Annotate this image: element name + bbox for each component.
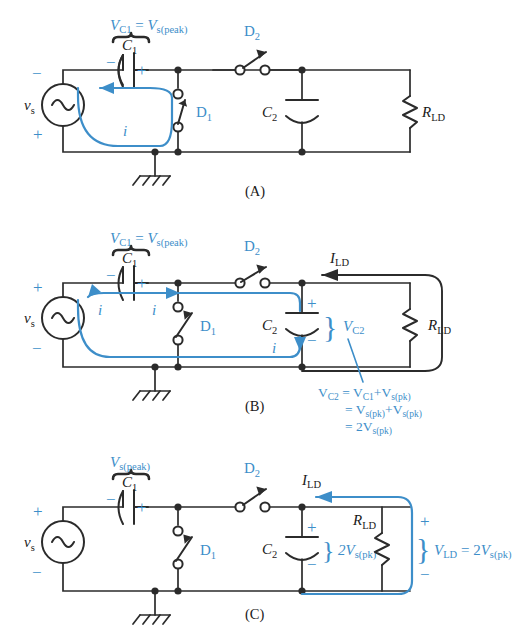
panel-a-wiring xyxy=(63,70,410,152)
vc2-label: VC2 xyxy=(343,318,364,336)
c2-bottom-sign: − xyxy=(307,555,317,574)
source-bottom-sign: − xyxy=(32,339,42,358)
c2-top-sign: + xyxy=(307,294,317,313)
c2-top-sign: + xyxy=(307,518,317,537)
vld-label: VLD = 2Vs(pk) xyxy=(434,542,512,561)
equation-line-2: = Vs(pk)+Vs(pk) xyxy=(345,402,422,420)
c1-brace-label: VC1 = Vs(peak) xyxy=(110,17,188,36)
diode-d1 xyxy=(173,89,187,131)
c2-voltage-brace: } xyxy=(322,536,334,565)
d1-label: D1 xyxy=(200,318,216,337)
panel-c-caption: (C) xyxy=(245,606,265,623)
source-bottom-sign: + xyxy=(33,125,43,144)
c1-label: C1 xyxy=(122,474,137,493)
node xyxy=(174,363,181,370)
c1-right-sign: + xyxy=(137,61,147,80)
d2-label: D2 xyxy=(244,238,260,257)
source-top-sign: − xyxy=(32,64,42,83)
vld-top-sign: + xyxy=(420,512,430,531)
rld-label: RLD xyxy=(421,104,446,123)
panel-a-caption: (A) xyxy=(245,183,265,200)
d1-label: D1 xyxy=(200,542,216,561)
equation-line-1: VC2 = VC1+Vs(pk) xyxy=(318,385,411,403)
d1-label: D1 xyxy=(196,104,212,123)
capacitor-c2 xyxy=(286,100,318,123)
node xyxy=(174,66,181,73)
node xyxy=(298,148,305,155)
panel-a: vs − + − + C1 VC1 = Vs(peak) D1 D2 C2 RL… xyxy=(0,0,521,205)
node xyxy=(174,587,181,594)
resistor-rld xyxy=(375,533,389,565)
node xyxy=(174,148,181,155)
node xyxy=(298,363,305,370)
node xyxy=(298,503,305,510)
diode-d2 xyxy=(235,486,269,511)
c1-label: C1 xyxy=(122,250,137,269)
vc2-pointer xyxy=(348,339,363,382)
ground-symbol xyxy=(133,367,170,400)
c1-left-sign: − xyxy=(106,490,116,509)
c1-brace-label: Vs(peak) xyxy=(110,454,151,473)
diode-d1 xyxy=(173,302,192,344)
source-label: vs xyxy=(24,97,35,116)
panel-c: vs + − − + C1 Vs(peak) D1 D2 C2 + − } 2V… xyxy=(0,433,521,635)
vld-brace: } xyxy=(416,532,430,565)
c1-brace-label: VC1 = Vs(peak) xyxy=(110,230,188,249)
node xyxy=(298,279,305,286)
node xyxy=(174,279,181,286)
resistor-rld xyxy=(403,96,417,128)
node xyxy=(298,66,305,73)
source-label: vs xyxy=(24,310,35,329)
diode-d1 xyxy=(173,526,192,568)
current-label-i-bottom: i xyxy=(272,340,276,356)
source-top-sign: + xyxy=(33,502,43,521)
diode-d2 xyxy=(235,264,269,287)
voltage-source-vs xyxy=(42,521,84,563)
source-top-sign: + xyxy=(33,278,43,297)
c1-right-sign: + xyxy=(137,498,147,517)
node xyxy=(174,503,181,510)
c1-label: C1 xyxy=(122,37,137,56)
source-bottom-sign: − xyxy=(32,563,42,582)
ild-label: ILD xyxy=(301,472,321,490)
c2-bottom-sign: − xyxy=(307,331,317,350)
c2-brace-label: 2Vs(pk) xyxy=(338,542,377,561)
rld-label: RLD xyxy=(427,317,452,336)
c1-left-sign: − xyxy=(106,53,116,72)
panel-b: vs + − − + C1 VC1 = Vs(peak) D1 D2 C2 + … xyxy=(0,205,521,433)
current-label-i: i xyxy=(123,123,127,139)
c2-label: C2 xyxy=(262,317,277,336)
c1-left-sign: − xyxy=(106,266,116,285)
ground-symbol xyxy=(133,591,170,624)
panel-b-caption: (B) xyxy=(245,398,265,415)
ild-label: ILD xyxy=(329,250,349,268)
ground-symbol xyxy=(133,152,170,185)
d2-label: D2 xyxy=(244,23,260,42)
resistor-rld xyxy=(403,309,417,341)
vld-bottom-sign: − xyxy=(420,565,430,584)
rld-label: RLD xyxy=(352,512,377,531)
c2-label: C2 xyxy=(262,541,277,560)
source-label: vs xyxy=(24,534,35,553)
d2-label: D2 xyxy=(244,460,260,479)
c1-right-sign: + xyxy=(137,274,147,293)
vc2-brace: } xyxy=(323,310,337,343)
c2-label: C2 xyxy=(262,104,277,123)
current-label-i-mid: i xyxy=(152,302,156,318)
current-label-i-left: i xyxy=(98,302,102,318)
